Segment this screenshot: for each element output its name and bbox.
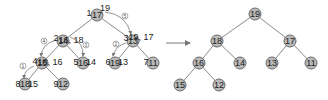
step-1: 1 [20, 63, 26, 69]
svg-text:19, 17: 19, 17 [128, 32, 153, 42]
after-node-2: 18 [211, 35, 223, 47]
svg-text:17: 17 [285, 36, 295, 46]
svg-text:5: 5 [124, 13, 127, 19]
svg-text:16, 18: 16, 18 [58, 35, 83, 45]
svg-text:15: 15 [175, 80, 185, 90]
step-5: 5 [122, 13, 128, 19]
svg-text:3: 3 [85, 42, 88, 48]
before-node-3: 13 3 19, 17 [123, 32, 153, 47]
svg-text:1: 1 [22, 63, 25, 69]
svg-text:5: 5 [73, 57, 78, 67]
svg-text:9: 9 [53, 79, 58, 89]
svg-text:19: 19 [100, 3, 110, 13]
before-node-5: 16 5 14 [73, 57, 96, 69]
svg-text:11: 11 [148, 58, 157, 68]
svg-text:14: 14 [235, 58, 245, 68]
step-2: 2 [113, 41, 119, 47]
after-node-8: 15 [174, 79, 186, 91]
svg-text:7: 7 [143, 57, 148, 67]
svg-text:15: 15 [28, 79, 38, 89]
heap-diagram: 1 2 3 4 5 17 1 19 14 2 16, 18 13 3 19, 1… [0, 0, 328, 100]
before-node-2: 14 2 16, 18 [53, 33, 83, 47]
svg-text:6: 6 [105, 57, 110, 67]
before-node-8: 18 8 15 [15, 78, 38, 90]
step-3: 3 [83, 42, 89, 48]
before-node-1: 17 1 19 [86, 3, 110, 21]
svg-text:14: 14 [86, 57, 96, 67]
svg-text:11: 11 [306, 58, 315, 68]
before-node-4: 15 4 18, 16 [32, 56, 62, 69]
svg-text:19: 19 [250, 9, 260, 19]
before-node-9: 12 9 [53, 78, 69, 90]
after-node-4: 16 [193, 57, 205, 69]
svg-text:12: 12 [58, 79, 68, 89]
after-node-5: 14 [234, 57, 246, 69]
svg-text:2: 2 [115, 41, 118, 47]
step-4: 4 [41, 38, 47, 44]
svg-text:13: 13 [267, 58, 277, 68]
after-tree-edges [180, 14, 311, 85]
svg-text:18, 16: 18, 16 [37, 57, 62, 67]
svg-text:4: 4 [43, 38, 46, 44]
after-node-6: 13 [266, 57, 278, 69]
svg-text:13: 13 [118, 57, 128, 67]
svg-text:18: 18 [212, 36, 222, 46]
after-node-7: 11 [305, 57, 317, 69]
after-node-3: 17 [284, 35, 296, 47]
svg-text:8: 8 [15, 79, 20, 89]
svg-text:12: 12 [214, 80, 224, 90]
after-node-9: 12 [213, 79, 225, 91]
svg-text:16: 16 [194, 58, 204, 68]
before-node-6: 19 6 13 [105, 57, 128, 69]
before-tree-edges [25, 15, 153, 84]
svg-text:1: 1 [86, 8, 91, 18]
before-node-7: 11 7 [143, 57, 159, 69]
after-node-1: 19 [249, 8, 261, 20]
